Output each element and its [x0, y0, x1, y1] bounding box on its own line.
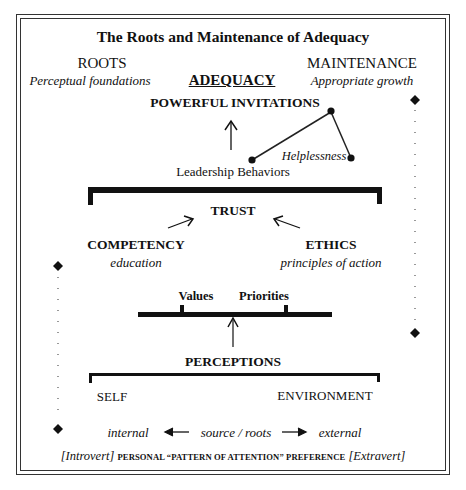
maintenance-heading: MAINTENANCE	[307, 56, 417, 71]
arrow-ethics-to-trust-icon	[274, 216, 300, 228]
maintenance-dotted-scale	[410, 95, 420, 338]
self-label: SELF	[97, 390, 127, 403]
balance-beam	[138, 305, 332, 347]
values-label: Values	[179, 290, 214, 303]
external-label: external	[319, 426, 362, 439]
priorities-label: Priorities	[239, 290, 289, 303]
trust-label: TRUST	[210, 204, 255, 218]
leadership-behaviors-label: Leadership Behaviors	[176, 165, 290, 178]
perceptions-label: PERCEPTIONS	[185, 355, 281, 369]
helplessness-label: Helplessness	[282, 150, 347, 163]
ethics-heading: ETHICS	[305, 238, 356, 252]
adequacy-heading: ADEQUACY	[189, 73, 276, 88]
internal-label: internal	[107, 426, 148, 439]
attention-preference-footer: [Introvert] PERSONAL “PATTERN OF ATTENTI…	[61, 450, 406, 463]
extravert-label: [Extravert]	[348, 449, 405, 463]
pattern-of-attention-label: PERSONAL “PATTERN OF ATTENTION” PREFEREN…	[117, 452, 345, 462]
powerful-invitations-label: POWERFUL INVITATIONS	[150, 96, 319, 110]
arrow-left-internal-icon	[165, 428, 189, 436]
competency-heading: COMPETENCY	[87, 238, 185, 252]
arrow-up-icon	[225, 121, 237, 150]
environment-label: ENVIRONMENT	[277, 389, 372, 402]
source-roots-label: source / roots	[201, 426, 272, 439]
arrow-right-external-icon	[282, 428, 306, 436]
roots-heading: ROOTS	[77, 56, 126, 71]
maintenance-subtitle: Appropriate growth	[311, 74, 414, 87]
roots-subtitle: Perceptual foundations	[29, 74, 150, 87]
competency-subtitle: education	[110, 256, 161, 269]
introvert-label: [Introvert]	[61, 449, 115, 463]
roots-dotted-scale	[53, 261, 63, 434]
arrow-competency-to-trust-icon	[168, 216, 193, 228]
diagram-title: The Roots and Maintenance of Adequacy	[97, 29, 370, 45]
perceptions-bracket	[89, 373, 380, 383]
ethics-subtitle: principles of action	[280, 256, 381, 269]
